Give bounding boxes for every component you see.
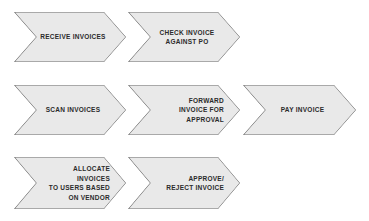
process-step-label: SCAN INVOICES [14,105,126,115]
process-step-check-invoice-against-po[interactable]: CHECK INVOICE AGAINST PO [128,12,240,62]
process-step-approve-reject-invoice[interactable]: APPROVE/ REJECT INVOICE [128,157,240,209]
process-step-allocate-invoices-to-users-based-on-vendor[interactable]: ALLOCATE INVOICES TO USERS BASED ON VEND… [14,157,126,209]
process-step-pay-invoice[interactable]: PAY INVOICE [243,85,356,135]
process-step-scan-invoices[interactable]: SCAN INVOICES [14,85,126,135]
process-step-receive-invoices[interactable]: RECEIVE INVOICES [14,12,126,62]
process-step-label: ALLOCATE INVOICES TO USERS BASED ON VEND… [14,164,126,202]
process-step-label: FORWARD INVOICE FOR APPROVAL [128,96,240,125]
process-step-forward-invoice-for-approval[interactable]: FORWARD INVOICE FOR APPROVAL [128,85,240,135]
process-step-label: CHECK INVOICE AGAINST PO [128,28,240,47]
process-step-label: PAY INVOICE [243,105,356,115]
process-flow-diagram: RECEIVE INVOICES CHECK INVOICE AGAINST P… [0,0,369,221]
process-step-label: APPROVE/ REJECT INVOICE [128,174,240,193]
process-step-label: RECEIVE INVOICES [14,32,126,42]
